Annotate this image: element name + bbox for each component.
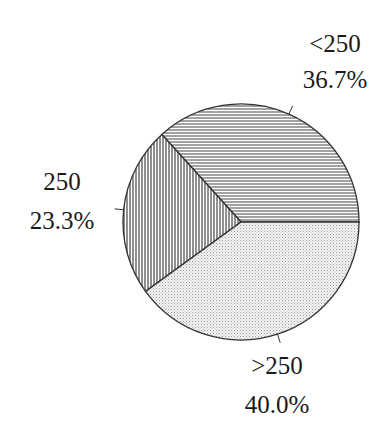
slice-label-percent: 40.0% [245, 391, 310, 418]
slice-label-percent: 23.3% [30, 207, 95, 234]
slice-label-percent: 36.7% [303, 66, 368, 93]
pie-slices [123, 104, 359, 340]
slice-label-name: <250 [309, 30, 361, 57]
slice-label-name: >250 [251, 352, 303, 379]
leader-line [277, 334, 280, 343]
slice-label-name: 250 [43, 168, 81, 195]
slice-label-gt250: >250 40.0% [245, 352, 310, 418]
leader-line [289, 106, 293, 114]
pie-chart: <250 36.7% 250 23.3% >250 40.0% [0, 0, 392, 440]
leader-line [115, 209, 124, 210]
slice-label-lt250: <250 36.7% [303, 30, 368, 93]
slice-label-250: 250 23.3% [30, 168, 95, 234]
